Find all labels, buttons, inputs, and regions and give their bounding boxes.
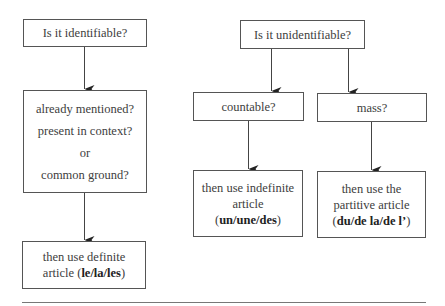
indefinite-close: )	[277, 213, 281, 227]
definite-result-line2: article (le/la/les)	[43, 265, 125, 281]
condition-already-mentioned: already mentioned?	[36, 101, 134, 117]
countable-question-box: countable?	[193, 92, 304, 121]
identifiable-question-text: Is it identifiable?	[43, 25, 128, 41]
identifiable-conditions-box: already mentioned? present in context? o…	[23, 90, 147, 193]
bottom-rule-divider	[22, 302, 426, 303]
mass-question-text: mass?	[357, 100, 388, 116]
definite-prefix: article (	[43, 266, 82, 280]
indefinite-result-line3: (un/une/des)	[215, 212, 281, 228]
definite-result-line1: then use definite	[43, 249, 126, 265]
indefinite-article-box: then use indefinite article (un/une/des)	[193, 170, 303, 237]
condition-or: or	[80, 145, 90, 161]
mass-question-box: mass?	[317, 93, 427, 122]
indefinite-result-line1: then use indefinite	[202, 180, 294, 196]
identifiable-question-box: Is it identifiable?	[23, 19, 147, 47]
definite-article-box: then use definite article (le/la/les)	[22, 241, 146, 289]
partitive-result-line2: partitive article	[333, 197, 409, 213]
countable-question-text: countable?	[221, 99, 275, 115]
unidentifiable-question-box: Is it unidentifiable?	[240, 20, 365, 49]
indefinite-result-line2: article	[232, 196, 263, 212]
partitive-close: )	[406, 214, 410, 228]
condition-common-ground: common ground?	[41, 167, 129, 183]
partitive-result-line1: then use the	[342, 181, 402, 197]
unidentifiable-question-text: Is it unidentifiable?	[254, 27, 351, 43]
definite-articles: le/la/les	[81, 266, 121, 280]
indefinite-articles: un/une/des	[219, 213, 277, 227]
definite-suffix: )	[121, 266, 125, 280]
partitive-articles: du/de la/de l’	[337, 214, 406, 228]
condition-present-in-context: present in context?	[38, 123, 132, 139]
partitive-result-line3: (du/de la/de l’)	[333, 213, 411, 229]
partitive-article-box: then use the partitive article (du/de la…	[317, 171, 426, 238]
